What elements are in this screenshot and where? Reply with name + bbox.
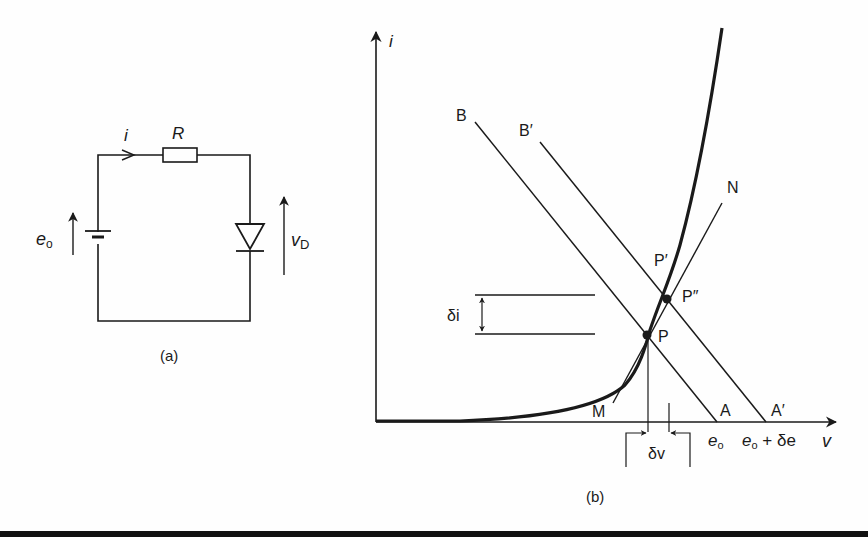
label-P-prime: P′	[654, 252, 668, 269]
current-label: i	[124, 126, 129, 145]
label-delta-v: δv	[648, 445, 665, 462]
delta-v-right-bracket-arrow-icon	[671, 433, 690, 467]
wire-bottom	[98, 244, 250, 321]
wire-top-right	[197, 155, 250, 224]
diode-icon	[236, 224, 264, 249]
label-e0-plus-delta-e: eo + δe	[742, 431, 796, 451]
x-axis-label: v	[822, 431, 832, 451]
caption-b: (b)	[586, 488, 604, 505]
diode-characteristic-curve	[376, 28, 722, 421]
label-N: N	[727, 179, 739, 196]
label-A: A	[720, 402, 731, 419]
figure-canvas: i R eo vD (a) i v B B′ N P′ P″ P M A A′	[0, 0, 868, 537]
caption-a: (a)	[160, 347, 178, 364]
label-A-prime: A′	[771, 402, 785, 419]
resistor-label: R	[172, 124, 184, 143]
circuit-diagram	[73, 148, 284, 321]
wire-top-left	[98, 155, 163, 232]
label-P-double-prime: P″	[682, 288, 699, 305]
delta-v-left-bracket-arrow-icon	[626, 433, 646, 467]
source-label: eo	[36, 229, 53, 251]
y-axis-label: i	[389, 32, 394, 51]
load-line-BA	[475, 122, 717, 422]
label-B-prime: B′	[519, 122, 533, 139]
point-P	[643, 331, 652, 340]
diode-voltage-label: vD	[291, 230, 309, 252]
point-P-double-prime	[663, 295, 672, 304]
diode-load-line-figure: i R eo vD (a) i v B B′ N P′ P″ P M A A′	[0, 0, 868, 537]
label-delta-i: δi	[447, 307, 459, 324]
label-e0: eo	[708, 431, 724, 451]
resistor-symbol	[163, 148, 197, 162]
iv-graph	[376, 28, 836, 467]
bottom-border	[0, 531, 868, 537]
label-B: B	[456, 107, 467, 124]
label-P: P	[658, 328, 669, 345]
label-M: M	[592, 403, 605, 420]
